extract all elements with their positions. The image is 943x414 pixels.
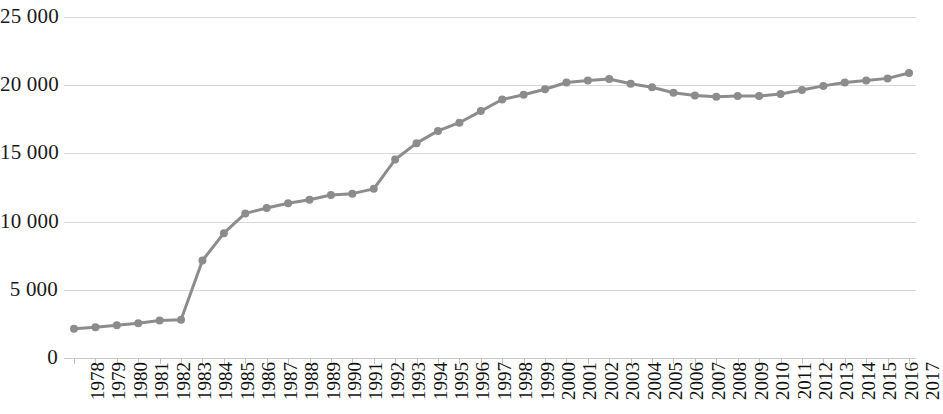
x-tick-label-2004: 2004 <box>638 362 657 400</box>
data-point-2006 <box>669 89 677 97</box>
x-tick-label-1999: 1999 <box>531 362 550 400</box>
x-tick-label-1992: 1992 <box>381 362 400 400</box>
data-point-2009 <box>734 92 742 100</box>
data-point-2012 <box>798 86 806 94</box>
data-point-2005 <box>648 83 656 91</box>
x-tick-label-1990: 1990 <box>338 362 357 400</box>
x-tick-label-2002: 2002 <box>595 362 614 400</box>
x-tick-label-1996: 1996 <box>466 362 485 400</box>
data-point-1985 <box>220 229 228 237</box>
x-tick-label-1981: 1981 <box>145 362 164 400</box>
x-tick-label-2015: 2015 <box>873 362 892 400</box>
x-tick-label-1989: 1989 <box>317 362 336 400</box>
data-point-1997 <box>477 107 485 115</box>
x-tick-label-1998: 1998 <box>509 362 528 400</box>
x-tick-label-1978: 1978 <box>81 362 100 400</box>
data-point-1988 <box>284 199 292 207</box>
x-tick-label-2011: 2011 <box>788 362 807 399</box>
data-point-1986 <box>241 209 249 217</box>
data-point-1989 <box>306 196 314 204</box>
data-point-2016 <box>884 74 892 82</box>
data-point-1994 <box>413 139 421 147</box>
x-tick-label-2013: 2013 <box>830 362 849 400</box>
data-point-1987 <box>263 204 271 212</box>
x-tick-label-1982: 1982 <box>167 362 186 400</box>
data-point-2013 <box>819 82 827 90</box>
x-tick-label-1991: 1991 <box>359 362 378 400</box>
x-tick-label-2014: 2014 <box>852 362 871 400</box>
x-tick-label-1984: 1984 <box>209 362 228 400</box>
x-tick-label-1983: 1983 <box>188 362 207 400</box>
x-tick-label-2012: 2012 <box>809 362 828 400</box>
x-tick-label-2000: 2000 <box>552 362 571 400</box>
data-point-2002 <box>584 76 592 84</box>
data-point-1983 <box>177 316 185 324</box>
data-point-1999 <box>520 91 528 99</box>
x-tick-label-1987: 1987 <box>274 362 293 400</box>
y-tick-label-20000: 20 000 <box>0 74 58 95</box>
x-tick-label-1997: 1997 <box>488 362 507 400</box>
data-point-2001 <box>562 78 570 86</box>
x-tick-label-2007: 2007 <box>702 362 721 400</box>
y-tick-label-15000: 15 000 <box>0 142 58 163</box>
data-point-1984 <box>198 256 206 264</box>
data-point-2007 <box>691 91 699 99</box>
data-point-2014 <box>841 78 849 86</box>
data-point-1992 <box>370 185 378 193</box>
x-tick-label-2008: 2008 <box>723 362 742 400</box>
x-tick-label-2006: 2006 <box>680 362 699 400</box>
x-axis-tick-labels: 1978197919801981198219831984198519861987… <box>64 362 916 414</box>
data-point-1990 <box>327 191 335 199</box>
y-tick-label-25000: 25 000 <box>0 6 58 27</box>
x-tick-label-1980: 1980 <box>124 362 143 400</box>
data-point-2004 <box>627 80 635 88</box>
x-tick-label-2001: 2001 <box>573 362 592 400</box>
data-point-2000 <box>541 85 549 93</box>
data-point-2008 <box>712 93 720 101</box>
data-point-1991 <box>348 190 356 198</box>
data-point-1979 <box>91 323 99 331</box>
x-tick-label-2009: 2009 <box>745 362 764 400</box>
x-tick-label-text: 2017 <box>923 362 942 400</box>
data-point-1995 <box>434 127 442 135</box>
x-tick-label-2016: 2016 <box>895 362 914 400</box>
y-axis-tick-labels: 05 00010 00015 00020 00025 000 <box>0 0 58 414</box>
y-tick-label-10000: 10 000 <box>0 211 58 232</box>
x-tick-label-1995: 1995 <box>445 362 464 400</box>
x-tick-label-1986: 1986 <box>252 362 271 400</box>
y-tick-label-0: 0 <box>0 347 58 368</box>
data-point-1993 <box>391 156 399 164</box>
data-point-1981 <box>134 319 142 327</box>
plot-area <box>64 0 916 368</box>
data-point-2017 <box>905 69 913 77</box>
x-tick-label-1988: 1988 <box>295 362 314 400</box>
data-point-2003 <box>605 75 613 83</box>
data-point-1998 <box>498 96 506 104</box>
x-tick-label-2005: 2005 <box>659 362 678 400</box>
data-point-1982 <box>156 316 164 324</box>
data-point-1978 <box>70 325 78 333</box>
data-point-1980 <box>113 321 121 329</box>
x-tick-label-1985: 1985 <box>231 362 250 400</box>
x-tick-label-2017: 2017 <box>916 362 935 400</box>
x-tick-label-1979: 1979 <box>102 362 121 400</box>
data-point-2015 <box>862 76 870 84</box>
series-line <box>74 73 909 329</box>
x-tick-label-2010: 2010 <box>766 362 785 400</box>
data-point-1996 <box>455 119 463 127</box>
data-point-2011 <box>777 90 785 98</box>
data-series <box>64 0 916 368</box>
y-tick-label-5000: 5 000 <box>0 279 58 300</box>
x-tick-label-1994: 1994 <box>424 362 443 400</box>
x-tick-label-2003: 2003 <box>616 362 635 400</box>
x-tick-label-1993: 1993 <box>402 362 421 400</box>
data-point-2010 <box>755 92 763 100</box>
